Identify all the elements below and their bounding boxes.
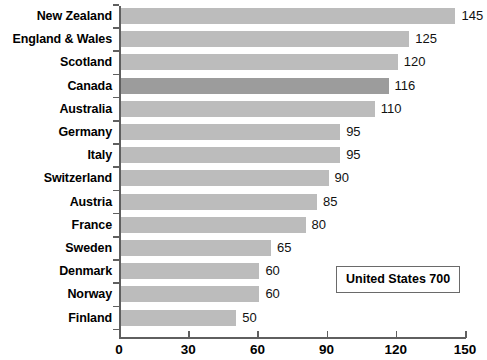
y-axis-tick bbox=[113, 259, 119, 261]
category-label-france: France bbox=[0, 217, 112, 233]
bar-canada bbox=[121, 78, 389, 94]
y-axis-tick bbox=[113, 97, 119, 99]
bar-row: England & Wales125 bbox=[0, 31, 481, 54]
bar-value-canada: 116 bbox=[395, 77, 416, 95]
bar-finland bbox=[121, 310, 236, 326]
bar-switzerland bbox=[121, 170, 329, 186]
x-axis-line bbox=[119, 337, 466, 339]
bar-italy bbox=[121, 147, 340, 163]
y-axis-tick bbox=[113, 4, 119, 6]
category-label-scotland: Scotland bbox=[0, 54, 112, 70]
bar-row: France80 bbox=[0, 217, 481, 240]
y-axis-tick bbox=[113, 120, 119, 122]
bar-england-wales bbox=[121, 31, 409, 47]
x-axis-tick-label-0: 0 bbox=[97, 341, 141, 358]
bar-value-austria: 85 bbox=[323, 193, 337, 211]
bar-austria bbox=[121, 194, 317, 210]
bar-value-sweden: 65 bbox=[277, 239, 291, 257]
category-label-italy: Italy bbox=[0, 147, 112, 163]
x-axis-tick bbox=[257, 331, 259, 338]
bar-value-italy: 95 bbox=[346, 146, 360, 164]
bar-row: Germany95 bbox=[0, 124, 481, 147]
y-axis-tick bbox=[113, 213, 119, 215]
x-axis-tick bbox=[119, 331, 121, 338]
category-label-finland: Finland bbox=[0, 310, 112, 326]
bar-row: Austria85 bbox=[0, 194, 481, 217]
y-axis-tick bbox=[113, 27, 119, 29]
y-axis-tick bbox=[113, 166, 119, 168]
x-axis-tick bbox=[465, 331, 467, 338]
y-axis-tick bbox=[113, 236, 119, 238]
x-axis-tick-label-120: 120 bbox=[374, 341, 418, 358]
bar-new-zealand bbox=[121, 8, 455, 24]
bar-row: Canada116 bbox=[0, 78, 481, 101]
category-label-norway: Norway bbox=[0, 286, 112, 302]
category-label-sweden: Sweden bbox=[0, 240, 112, 256]
bar-value-denmark: 60 bbox=[265, 262, 279, 280]
category-label-australia: Australia bbox=[0, 101, 112, 117]
bar-france bbox=[121, 217, 306, 233]
bar-value-switzerland: 90 bbox=[335, 169, 349, 187]
x-axis-tick-label-60: 60 bbox=[235, 341, 279, 358]
y-axis-tick bbox=[113, 190, 119, 192]
category-label-germany: Germany bbox=[0, 124, 112, 140]
bar-scotland bbox=[121, 54, 398, 70]
bar-value-germany: 95 bbox=[346, 123, 360, 141]
category-label-england-wales: England & Wales bbox=[0, 31, 112, 47]
x-axis-tick-label-90: 90 bbox=[305, 341, 349, 358]
bar-norway bbox=[121, 286, 259, 302]
bar-value-new-zealand: 145 bbox=[461, 7, 483, 25]
bar-row: New Zealand145 bbox=[0, 8, 481, 31]
bar-value-england-wales: 125 bbox=[415, 30, 437, 48]
bar-row: Australia110 bbox=[0, 101, 481, 124]
x-axis-tick bbox=[327, 331, 329, 338]
x-axis-tick bbox=[188, 331, 190, 338]
bar-denmark bbox=[121, 263, 259, 279]
bar-australia bbox=[121, 101, 375, 117]
x-axis-tick-label-30: 30 bbox=[166, 341, 210, 358]
bar-row: Switzerland90 bbox=[0, 170, 481, 193]
y-axis-tick bbox=[113, 50, 119, 52]
bar-value-scotland: 120 bbox=[404, 53, 426, 71]
bar-row: Finland50 bbox=[0, 310, 481, 333]
y-axis-tick bbox=[113, 74, 119, 76]
x-axis-tick bbox=[396, 331, 398, 338]
bar-value-norway: 60 bbox=[265, 285, 279, 303]
bar-value-finland: 50 bbox=[242, 309, 256, 327]
category-label-denmark: Denmark bbox=[0, 263, 112, 279]
bar-value-australia: 110 bbox=[381, 100, 402, 118]
category-label-new-zealand: New Zealand bbox=[0, 8, 112, 24]
bar-row: Scotland120 bbox=[0, 54, 481, 77]
bar-row: Italy95 bbox=[0, 147, 481, 170]
category-label-canada: Canada bbox=[0, 78, 112, 94]
bar-germany bbox=[121, 124, 340, 140]
y-axis-tick bbox=[113, 306, 119, 308]
y-axis-tick bbox=[113, 143, 119, 145]
bar-value-france: 80 bbox=[312, 216, 326, 234]
bar-sweden bbox=[121, 240, 271, 256]
x-axis-tick-label-150: 150 bbox=[443, 341, 487, 358]
category-label-switzerland: Switzerland bbox=[0, 170, 112, 186]
united-states-annotation: United States 700 bbox=[336, 266, 460, 293]
y-axis-tick bbox=[113, 282, 119, 284]
bar-row: Sweden65 bbox=[0, 240, 481, 263]
category-label-austria: Austria bbox=[0, 194, 112, 210]
